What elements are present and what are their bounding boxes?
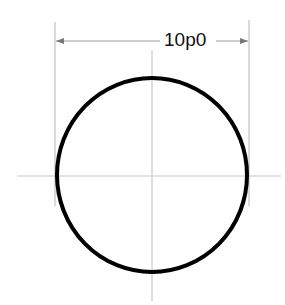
diagram-canvas xyxy=(0,0,285,305)
dimension-label: 10p0 xyxy=(163,29,207,51)
left-arrowhead-icon xyxy=(56,38,64,44)
right-arrowhead-icon xyxy=(240,38,248,44)
